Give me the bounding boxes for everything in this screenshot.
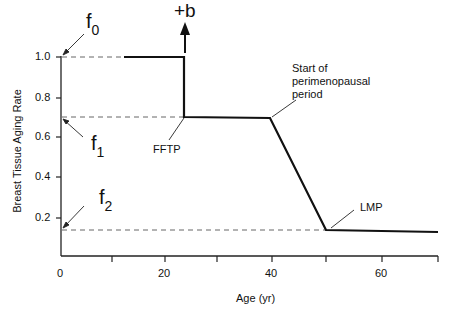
y-ticks (56, 57, 61, 218)
y-tick-0.2: 0.2 (35, 211, 50, 223)
x-tick-0: 0 (57, 267, 63, 279)
plus-b-label: +b (174, 0, 196, 22)
y-axis-label: Breast Tissue Aging Rate (11, 81, 23, 221)
x-tick-60: 60 (375, 267, 387, 279)
y-tick-0.8: 0.8 (35, 91, 50, 103)
x-axis-label: Age (yr) (236, 292, 275, 304)
f2-label: f2 (99, 186, 112, 209)
y-tick-0.4: 0.4 (35, 170, 50, 182)
f0-label: f0 (86, 10, 99, 33)
x-tick-20: 20 (158, 267, 170, 279)
lmp-label: LMP (360, 201, 383, 213)
x-tick-40: 40 (265, 267, 277, 279)
perimenopausal-label: Start of perimenopausal period (292, 62, 370, 101)
arrow-up-icon (180, 22, 190, 35)
y-tick-1.0: 1.0 (35, 50, 50, 62)
f1-label: f1 (91, 132, 104, 155)
chart-canvas (0, 0, 450, 312)
y-tick-0.6: 0.6 (35, 130, 50, 142)
x-ticks (112, 256, 438, 262)
fftp-label: FFTP (153, 143, 181, 155)
